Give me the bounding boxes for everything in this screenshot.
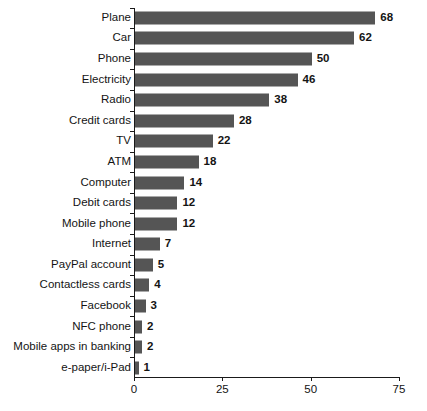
bar <box>135 32 354 45</box>
bar-row: Contactless cards4 <box>0 275 427 296</box>
bar-value-label: 12 <box>182 197 195 209</box>
y-axis-tick <box>130 193 134 194</box>
plot-area: Plane68Car62Phone50Electricity46Radio38C… <box>0 0 427 411</box>
category-label: Debit cards <box>73 197 131 209</box>
bar <box>135 320 142 333</box>
category-label: Contactless cards <box>40 280 131 292</box>
bar <box>135 217 177 230</box>
bar-row: Mobile phone12 <box>0 213 427 234</box>
x-axis-tick-label: 75 <box>393 384 406 396</box>
bar-row: Debit cards12 <box>0 193 427 214</box>
bar-row: Credit cards28 <box>0 111 427 132</box>
y-axis-tick <box>130 8 134 9</box>
bar <box>135 94 269 107</box>
bar-row: Radio38 <box>0 90 427 111</box>
category-label: Credit cards <box>69 115 131 127</box>
y-axis-tick <box>130 111 134 112</box>
bar <box>135 11 375 24</box>
bar-value-label: 5 <box>158 259 164 271</box>
bar <box>135 53 312 66</box>
x-axis-tick <box>134 377 135 381</box>
y-axis-tick <box>130 255 134 256</box>
bar-row: Car62 <box>0 28 427 49</box>
y-axis-tick <box>130 90 134 91</box>
x-axis-tick <box>311 377 312 381</box>
bar-row: Electricity46 <box>0 69 427 90</box>
bar-value-label: 1 <box>144 362 150 374</box>
bar-value-label: 2 <box>147 321 153 333</box>
bar-value-label: 4 <box>154 280 160 292</box>
bar <box>135 197 177 210</box>
bar-row: Phone50 <box>0 49 427 70</box>
bar <box>135 258 153 271</box>
bar-value-label: 38 <box>274 94 287 106</box>
bar <box>135 279 149 292</box>
bar-value-label: 14 <box>189 177 202 189</box>
x-axis-tick-label: 50 <box>304 384 317 396</box>
category-label: NFC phone <box>72 321 131 333</box>
y-axis-tick <box>130 28 134 29</box>
y-axis-tick <box>130 316 134 317</box>
bar-value-label: 68 <box>380 12 393 24</box>
bar-row: Facebook3 <box>0 296 427 317</box>
y-axis-tick <box>130 296 134 297</box>
bar <box>135 135 213 148</box>
bar-value-label: 12 <box>182 218 195 230</box>
bar <box>135 361 139 374</box>
y-axis-tick <box>130 152 134 153</box>
category-label: Phone <box>98 53 131 65</box>
bar <box>135 73 298 86</box>
bar <box>135 300 146 313</box>
bar-row: Computer14 <box>0 172 427 193</box>
y-axis-tick <box>130 49 134 50</box>
bar <box>135 238 160 251</box>
bar-value-label: 2 <box>147 341 153 353</box>
y-axis-tick <box>130 275 134 276</box>
category-label: Radio <box>101 94 131 106</box>
category-label: TV <box>116 136 131 148</box>
bar-value-label: 18 <box>204 156 217 168</box>
y-axis-tick <box>130 213 134 214</box>
bar-row: ATM18 <box>0 152 427 173</box>
category-label: e-paper/i-Pad <box>61 362 131 374</box>
bar-row: Plane68 <box>0 8 427 29</box>
bar-row: PayPal account5 <box>0 255 427 276</box>
category-label: Mobile apps in banking <box>13 341 131 353</box>
category-label: ATM <box>108 156 131 168</box>
category-label: Car <box>112 33 131 45</box>
y-axis-tick <box>130 172 134 173</box>
bar-value-label: 50 <box>317 53 330 65</box>
x-axis-tick-label: 25 <box>216 384 229 396</box>
bar-value-label: 62 <box>359 33 372 45</box>
bar-row: e-paper/i-Pad1 <box>0 357 427 378</box>
category-label: Mobile phone <box>62 218 131 230</box>
y-axis-tick <box>130 69 134 70</box>
bar <box>135 341 142 354</box>
category-label: Plane <box>102 12 131 24</box>
bar-row: Internet7 <box>0 234 427 255</box>
y-axis-tick <box>130 131 134 132</box>
bar-value-label: 46 <box>303 74 316 86</box>
bar-row: Mobile apps in banking2 <box>0 337 427 358</box>
bar <box>135 155 199 168</box>
y-axis-tick <box>130 337 134 338</box>
bar-chart: Plane68Car62Phone50Electricity46Radio38C… <box>0 0 427 411</box>
x-axis-tick <box>222 377 223 381</box>
bar-row: TV22 <box>0 131 427 152</box>
bar <box>135 114 234 127</box>
category-label: Electricity <box>82 74 131 86</box>
category-label: Facebook <box>80 300 131 312</box>
bar-value-label: 28 <box>239 115 252 127</box>
bar <box>135 176 184 189</box>
x-axis-tick <box>399 377 400 381</box>
y-axis-tick <box>130 234 134 235</box>
bar-value-label: 22 <box>218 136 231 148</box>
bar-value-label: 7 <box>165 239 171 251</box>
category-label: Computer <box>81 177 132 189</box>
category-label: Internet <box>92 239 131 251</box>
category-label: PayPal account <box>51 259 131 271</box>
x-axis-tick-label: 0 <box>131 384 137 396</box>
bar-row: NFC phone2 <box>0 316 427 337</box>
bar-value-label: 3 <box>151 300 157 312</box>
y-axis-tick <box>130 357 134 358</box>
